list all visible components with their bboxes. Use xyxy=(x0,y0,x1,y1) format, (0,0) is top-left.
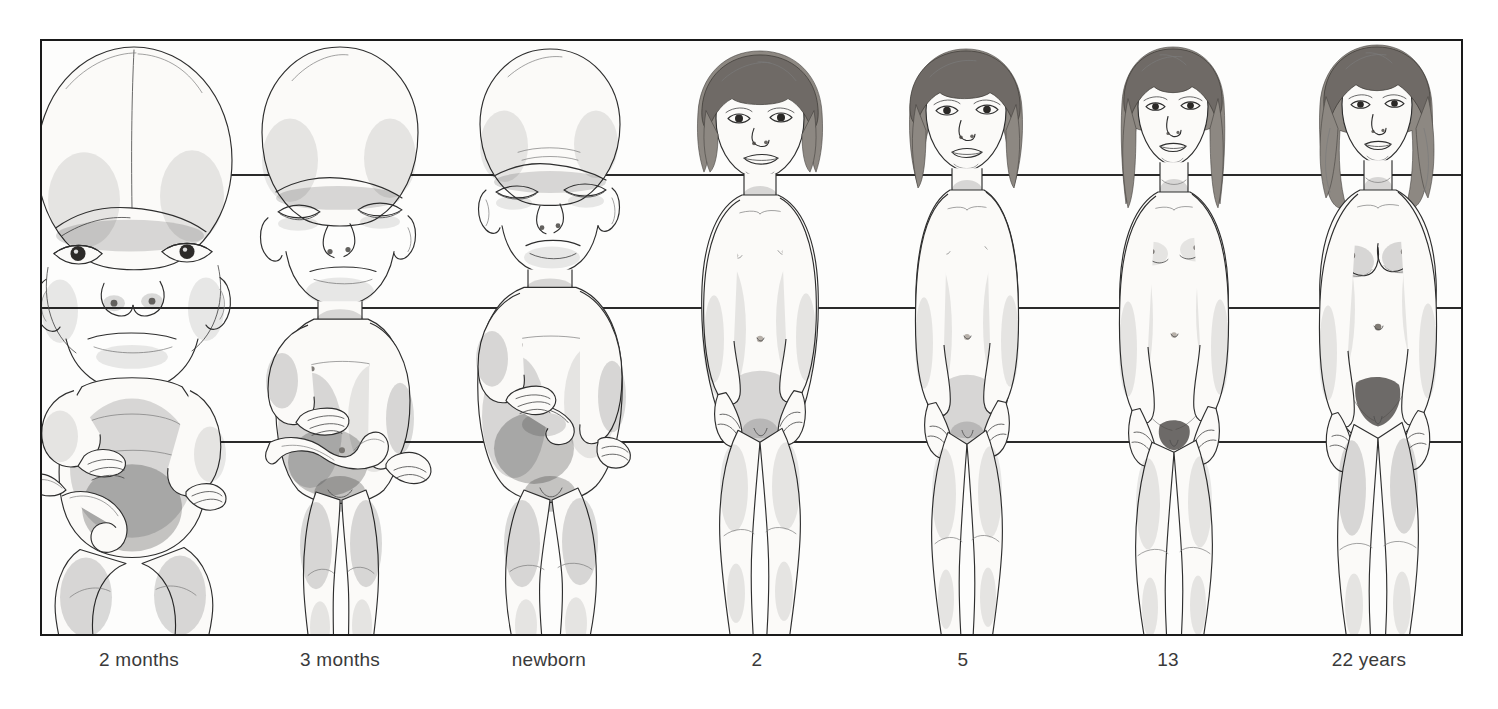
age-label-22-years: 22 years xyxy=(1332,648,1406,672)
proportion-chart-frame xyxy=(40,39,1463,636)
figure-newborn xyxy=(452,41,648,634)
age-label-newborn: newborn xyxy=(512,648,586,672)
age-label-2-years: 2 xyxy=(752,648,763,672)
age-label-13-years: 13 xyxy=(1157,648,1179,672)
figure-5-years xyxy=(886,41,1048,634)
figure-13-years xyxy=(1090,41,1256,634)
figure-2-years xyxy=(674,41,846,634)
figure-3-months xyxy=(242,41,438,634)
age-labels-row: 2 months 3 months newborn 2 5 13 22 year… xyxy=(0,648,1498,682)
age-label-3-months: 3 months xyxy=(300,648,380,672)
figure-2-months xyxy=(40,41,242,634)
age-label-2-months: 2 months xyxy=(99,648,179,672)
age-label-5-years: 5 xyxy=(958,648,969,672)
figure-page: 2 months 3 months newborn 2 5 13 22 year… xyxy=(0,0,1498,709)
figure-22-years xyxy=(1294,41,1460,634)
